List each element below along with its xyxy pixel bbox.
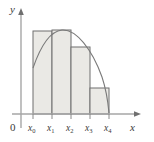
bar-2 — [71, 47, 90, 114]
bar-1 — [52, 30, 71, 114]
bar-0 — [33, 31, 52, 114]
x-tick-labels: x0 x1 x2 x3 x4 — [27, 123, 112, 134]
y-axis-label: y — [9, 3, 15, 15]
origin-label: 0 — [10, 121, 16, 133]
x-axis-label: x — [129, 121, 135, 133]
x-axis-arrowhead — [134, 111, 141, 117]
tick-label-x0: x0 — [27, 123, 35, 134]
tick-label-x4: x4 — [103, 123, 112, 134]
tick-label-x1: x1 — [46, 123, 54, 134]
tick-label-x2: x2 — [65, 123, 73, 134]
riemann-sum-figure: y x 0 x0 x1 x2 x3 x4 — [0, 0, 154, 142]
y-axis-arrowhead — [18, 8, 24, 15]
figure-canvas: y x 0 x0 x1 x2 x3 x4 — [0, 0, 154, 142]
tick-label-x3: x3 — [84, 123, 92, 134]
x-axis-ticks — [33, 114, 109, 119]
